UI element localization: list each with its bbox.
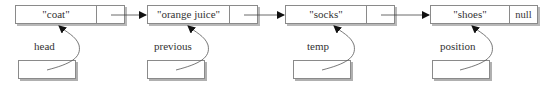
node-next-null: null <box>510 6 537 23</box>
node-next <box>230 6 257 23</box>
list-node-coat: "coat" <box>15 5 125 24</box>
node-next <box>97 6 124 23</box>
pointer-label-temp: temp <box>307 40 329 52</box>
pointer-label-head: head <box>34 40 55 52</box>
pointer-label-previous: previous <box>154 40 192 52</box>
pointer-label-position: position <box>440 40 475 52</box>
list-node-orange-juice: "orange juice" <box>147 5 258 24</box>
pointer-arrows <box>47 26 492 70</box>
node-data: "orange juice" <box>148 6 230 23</box>
node-next <box>367 6 394 23</box>
node-data: "socks" <box>286 6 367 23</box>
pointer-box-previous <box>147 60 205 79</box>
node-data: "coat" <box>16 6 97 23</box>
list-node-shoes: "shoes" null <box>430 5 538 24</box>
node-data: "shoes" <box>431 6 510 23</box>
list-node-socks: "socks" <box>285 5 395 24</box>
pointer-box-position <box>432 60 490 79</box>
pointer-box-temp <box>293 60 351 79</box>
pointer-box-head <box>18 60 76 79</box>
